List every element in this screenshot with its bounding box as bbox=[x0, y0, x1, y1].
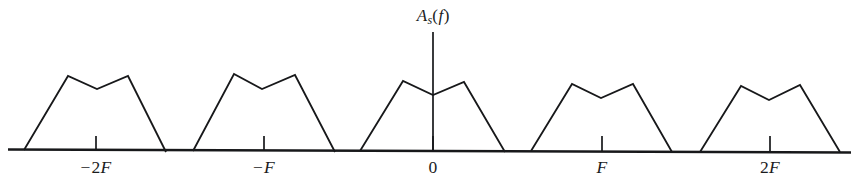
tick-label-number: 0 bbox=[428, 157, 437, 177]
tick-label-sign: − bbox=[253, 157, 264, 177]
axis-title-close-paren: ) bbox=[444, 6, 450, 25]
tick-label-variable: F bbox=[769, 157, 780, 177]
spectrum-figure: As(f) −2F−F0F2F bbox=[0, 0, 853, 194]
spectrum-traces-group bbox=[24, 74, 840, 152]
tick-label-number: 2 bbox=[92, 157, 101, 177]
axis-title-symbol: A bbox=[417, 6, 427, 25]
tick-label-sign: − bbox=[80, 157, 91, 177]
tick-label-variable: F bbox=[597, 157, 608, 177]
horizontal-frequency-axis bbox=[8, 150, 851, 153]
tick-label-number: 2 bbox=[760, 157, 769, 177]
tick-label-variable: F bbox=[101, 157, 112, 177]
spectrum-plot-canvas bbox=[0, 0, 853, 194]
tick-2F-label: 2F bbox=[760, 157, 780, 178]
tick-minus-F-label: −F bbox=[253, 157, 275, 178]
spectrum-replica-minus2F bbox=[24, 76, 166, 152]
tick-label-variable: F bbox=[264, 157, 275, 177]
tick-zero-label: 0 bbox=[428, 157, 437, 178]
tick-F-label: F bbox=[597, 157, 608, 178]
axis-title-label: As(f) bbox=[417, 6, 450, 28]
tick-minus-2F-label: −2F bbox=[80, 157, 111, 178]
